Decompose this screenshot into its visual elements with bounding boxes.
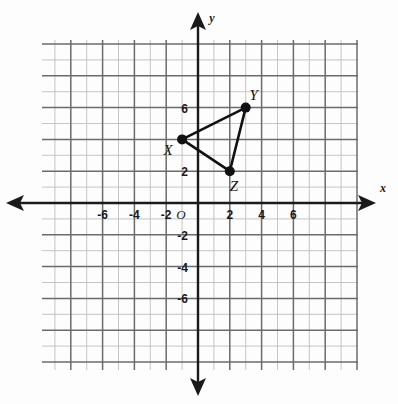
y-tick-label: -2 [177,229,188,243]
coordinate-graph: -6-4-2246 62-2-4-6 O x y XYZ [0,0,398,404]
vertex-label-z: Z [230,178,239,194]
x-tick-label: 6 [290,208,297,222]
x-axis-name-label: x [379,181,386,195]
x-tick-label: -2 [161,208,172,222]
x-tick-label: -4 [129,208,140,222]
y-tick-label: 6 [181,102,188,116]
origin-label: O [176,207,186,222]
x-tick-label: -6 [97,208,108,222]
x-tick-label: 2 [226,208,233,222]
vertex-point [241,103,251,113]
y-tick-label: -4 [177,261,188,275]
y-axis-name-label: y [207,11,215,25]
coordinate-plane-figure: -6-4-2246 62-2-4-6 O x y XYZ [0,0,398,404]
vertex-point [177,134,187,144]
y-tick-label: -6 [177,292,188,306]
vertex-point [225,166,235,176]
x-tick-label: 4 [258,208,265,222]
y-tick-label: 2 [181,165,188,179]
vertex-label-x: X [163,142,174,158]
